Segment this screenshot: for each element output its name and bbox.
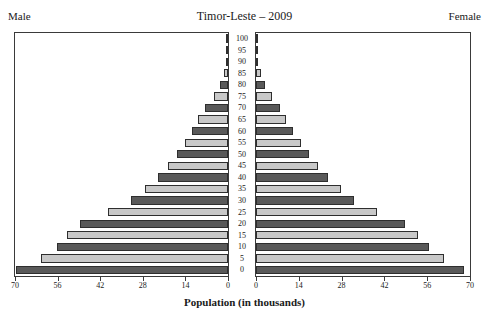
bar-female-35-39 [256, 185, 341, 193]
table-row [15, 91, 228, 103]
age-tick-label-95: 95 [229, 45, 255, 57]
bar-male-90-94 [226, 58, 228, 66]
bar-male-45-49 [168, 162, 228, 170]
age-tick-label-20: 20 [229, 218, 255, 230]
bar-female-10-14 [256, 243, 429, 251]
bar-female-30-34 [256, 196, 354, 204]
bar-male-20-24 [80, 220, 228, 228]
table-row [256, 126, 470, 138]
table-row [256, 230, 470, 242]
x-tick-label-42: 42 [85, 281, 115, 290]
female-bar-rows [256, 33, 470, 276]
age-tick-label-30: 30 [229, 195, 255, 207]
bar-male-95-99 [226, 46, 228, 54]
table-row [15, 68, 228, 80]
bar-male-85-89 [224, 69, 228, 77]
bar-male-55-59 [185, 139, 229, 147]
age-tick-label-25: 25 [229, 207, 255, 219]
x-tick-label-42: 42 [369, 281, 399, 290]
table-row [256, 264, 470, 276]
table-row [15, 137, 228, 149]
male-plot-panel [14, 32, 229, 277]
table-row [15, 102, 228, 114]
table-row [256, 172, 470, 184]
table-row [15, 149, 228, 161]
age-tick-label-0: 0 [229, 264, 255, 276]
age-tick-label-100: 100 [229, 33, 255, 45]
bar-female-45-49 [256, 162, 318, 170]
female-side-label: Female [449, 10, 481, 22]
table-row [15, 56, 228, 68]
table-row [15, 230, 228, 242]
bar-male-25-29 [108, 208, 228, 216]
bar-female-90-94 [256, 58, 258, 66]
bar-female-20-24 [256, 220, 405, 228]
table-row [15, 79, 228, 91]
table-row [256, 137, 470, 149]
population-pyramid-chart: Male Timor-Leste – 2009 Female 100959085… [0, 0, 489, 323]
table-row [15, 241, 228, 253]
age-tick-label-70: 70 [229, 102, 255, 114]
x-tick-label-28: 28 [327, 281, 357, 290]
table-row [256, 79, 470, 91]
table-row [256, 56, 470, 68]
bar-male-10-14 [57, 243, 228, 251]
table-row [15, 126, 228, 138]
table-row [256, 241, 470, 253]
bar-male-40-44 [158, 173, 228, 181]
x-tick-label-56: 56 [412, 281, 442, 290]
bar-male-100+ [226, 34, 228, 42]
bar-female-85-89 [256, 69, 261, 77]
table-row [256, 160, 470, 172]
chart-title: Timor-Leste – 2009 [0, 9, 489, 24]
table-row [256, 149, 470, 161]
table-row [256, 45, 470, 57]
table-row [256, 218, 470, 230]
bar-female-65-69 [256, 115, 286, 123]
bar-male-60-64 [192, 127, 228, 135]
table-row [256, 33, 470, 45]
table-row [15, 114, 228, 126]
age-tick-label-5: 5 [229, 253, 255, 265]
bar-female-55-59 [256, 139, 301, 147]
table-row [256, 195, 470, 207]
age-tick-label-45: 45 [229, 160, 255, 172]
bar-female-5-9 [256, 254, 444, 262]
table-row [256, 91, 470, 103]
bar-male-0-4 [16, 266, 228, 274]
bar-male-15-19 [67, 231, 228, 239]
x-tick-label-56: 56 [43, 281, 73, 290]
table-row [15, 160, 228, 172]
age-tick-label-40: 40 [229, 172, 255, 184]
x-axis-title: Population (in thousands) [0, 296, 489, 308]
table-row [15, 45, 228, 57]
age-tick-label-10: 10 [229, 241, 255, 253]
bar-male-75-79 [214, 92, 228, 100]
table-row [256, 114, 470, 126]
age-axis: 1009590858075706560555045403530252015105… [229, 32, 255, 277]
bar-female-100+ [256, 34, 258, 42]
x-tick-label-14: 14 [170, 281, 200, 290]
age-tick-label-85: 85 [229, 68, 255, 80]
age-tick-label-35: 35 [229, 183, 255, 195]
age-tick-label-65: 65 [229, 114, 255, 126]
x-tick-label-14: 14 [284, 281, 314, 290]
x-tick-label-0: 0 [241, 281, 271, 290]
table-row [15, 172, 228, 184]
age-tick-label-60: 60 [229, 126, 255, 138]
x-tick-label-0: 0 [213, 281, 243, 290]
table-row [15, 195, 228, 207]
bar-male-5-9 [41, 254, 228, 262]
age-tick-label-80: 80 [229, 79, 255, 91]
male-bar-rows [15, 33, 228, 276]
bar-male-50-54 [177, 150, 228, 158]
table-row [15, 183, 228, 195]
age-tick-label-90: 90 [229, 56, 255, 68]
x-tick-label-70: 70 [455, 281, 485, 290]
table-row [15, 264, 228, 276]
bar-female-75-79 [256, 92, 272, 100]
bar-female-25-29 [256, 208, 377, 216]
bar-female-40-44 [256, 173, 328, 181]
table-row [15, 253, 228, 265]
age-tick-label-50: 50 [229, 149, 255, 161]
